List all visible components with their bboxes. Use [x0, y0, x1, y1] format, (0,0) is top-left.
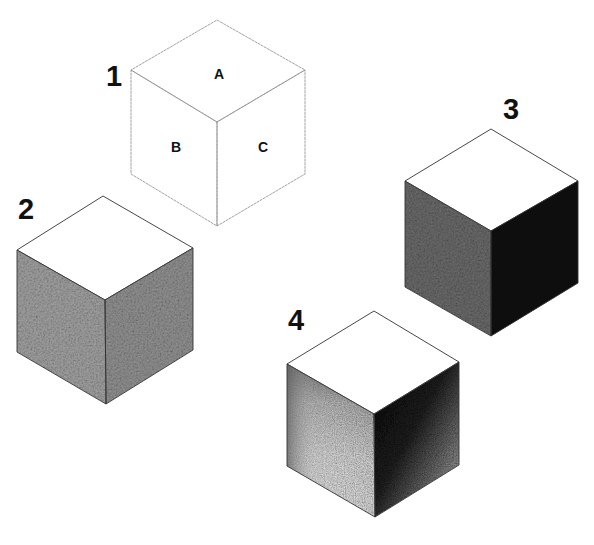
cube-diagram: 1 A B C 2 3 4 [0, 0, 594, 545]
cube-4-right-face [374, 362, 459, 517]
cube-2-right-face [105, 248, 193, 404]
cube-1: 1 A B C [106, 20, 305, 226]
cube-3-right-face [491, 181, 578, 336]
cube-label-3: 3 [503, 93, 519, 125]
cube-label-4: 4 [288, 304, 304, 336]
face-letter-c: C [258, 139, 268, 155]
cube-4-left-face-edge-shade [287, 364, 375, 517]
cube-3: 3 [405, 93, 578, 336]
cube-2-left-face [17, 250, 106, 404]
cube-4: 4 [287, 304, 459, 517]
face-letter-a: A [214, 66, 224, 82]
cube-2: 2 [17, 193, 193, 404]
cube-3-left-face [405, 181, 491, 336]
cube-label-2: 2 [18, 193, 34, 225]
cube-label-1: 1 [106, 60, 122, 92]
face-letter-b: B [171, 139, 181, 155]
